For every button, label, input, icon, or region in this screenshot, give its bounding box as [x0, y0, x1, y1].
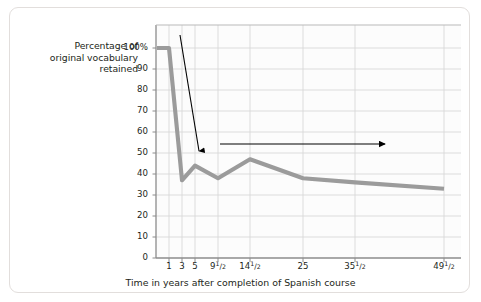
x-axis-title: Time in years after completion of Spanis… — [10, 277, 471, 288]
chart-plot — [10, 8, 471, 294]
plot-background — [156, 25, 461, 258]
figure-panel: Percentage of original vocabulary retain… — [9, 7, 470, 293]
